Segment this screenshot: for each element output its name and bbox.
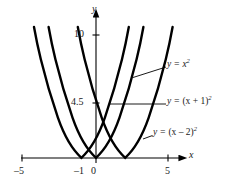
x-tick-label-neg1: –1 bbox=[74, 166, 84, 176]
curve-label-x-plus-1-squared: y = (x + 1)2 bbox=[167, 97, 212, 107]
y-axis-name: y bbox=[92, 4, 96, 14]
curve-label-2-base: (x + 1) bbox=[182, 96, 208, 106]
x-axis-name: x bbox=[189, 150, 193, 160]
curve-label-2-lhs: y = bbox=[167, 96, 182, 106]
x-tick-label-pos5: 5 bbox=[165, 166, 170, 176]
leader-line-curve3 bbox=[143, 136, 153, 140]
curve-label-3-lhs: y = bbox=[153, 127, 168, 137]
curve-label-x-squared: y = x2 bbox=[167, 60, 190, 70]
curve-label-2-exponent: 2 bbox=[208, 94, 211, 101]
x-tick-label-zero: 0 bbox=[91, 166, 96, 176]
parabola-translations-figure: –5 –1 0 5 10 4.5 x y y = x2 y = (x + 1)2… bbox=[0, 0, 230, 193]
y-tick-label-4point5: 4.5 bbox=[71, 97, 84, 107]
curve-label-1-lhs: y = bbox=[167, 59, 182, 69]
curve-label-3-base: (x – 2) bbox=[168, 127, 193, 137]
curve-label-3-exponent: 2 bbox=[194, 125, 197, 132]
curve-label-1-exponent: 2 bbox=[187, 57, 190, 64]
parabola-curves bbox=[34, 27, 173, 158]
curve-label-x-minus-2-squared: y = (x – 2)2 bbox=[153, 128, 197, 138]
y-tick-label-10: 10 bbox=[74, 29, 84, 39]
x-tick-label-neg5: –5 bbox=[14, 166, 24, 176]
